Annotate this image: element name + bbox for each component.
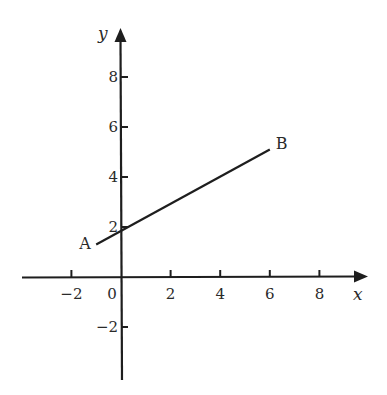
y-axis-arrow-icon xyxy=(115,28,127,42)
y-tick-label: 4 xyxy=(108,168,118,186)
y-axis-line xyxy=(121,40,123,380)
y-axis: y −22468 xyxy=(96,23,128,380)
point-a-label: A xyxy=(78,234,91,253)
y-tick-label: −2 xyxy=(96,318,118,336)
x-tick-label: 8 xyxy=(315,285,325,303)
x-tick-label: 2 xyxy=(166,285,176,303)
y-tick-label: 6 xyxy=(108,118,118,136)
x-tick-label: 4 xyxy=(215,285,225,303)
origin-label: 0 xyxy=(107,285,117,303)
x-axis-label: x xyxy=(353,284,363,304)
point-b-label: B xyxy=(276,134,288,153)
coordinate-plane: x −22468 y −22468 0 A B xyxy=(0,0,387,395)
y-tick-label: 8 xyxy=(108,68,118,86)
y-axis-label: y xyxy=(97,23,108,43)
x-axis-ticks: −22468 xyxy=(60,270,324,303)
x-axis: x −22468 xyxy=(22,270,368,304)
coordinate-plane-figure: x −22468 y −22468 0 A B xyxy=(0,0,387,395)
x-tick-label: 6 xyxy=(265,285,275,303)
x-tick-label: −2 xyxy=(60,285,82,303)
x-axis-arrow-icon xyxy=(354,271,368,283)
